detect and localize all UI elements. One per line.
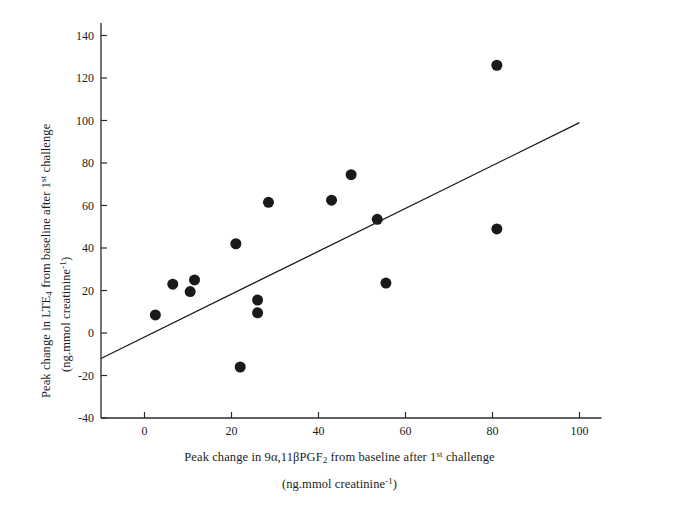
x-axis-title-line2: (ng.mmol creatinine-1) [0,476,679,492]
regression-fit-line [101,123,580,359]
data-point [189,274,200,285]
data-point [150,309,161,320]
data-point [230,238,241,249]
data-point [167,279,178,290]
regression-line [101,123,580,359]
data-point [185,286,196,297]
x-axis-ticks [145,412,580,418]
data-point [252,295,263,306]
data-point [346,169,357,180]
scatter-plot-figure: Peak change in LTE4 from baseline after … [0,0,679,509]
data-point [235,362,246,373]
data-point [491,60,502,71]
data-point [252,307,263,318]
axes-group [101,23,602,418]
data-point [326,195,337,206]
data-point [491,223,502,234]
data-point [263,197,274,208]
data-point [380,278,391,289]
data-point [372,214,383,225]
plot-canvas [0,0,679,509]
y-axis-ticks [101,36,107,419]
data-points-group [150,60,502,373]
x-axis-title-line1: Peak change in 9α,11βPGF2 from baseline … [0,449,679,465]
